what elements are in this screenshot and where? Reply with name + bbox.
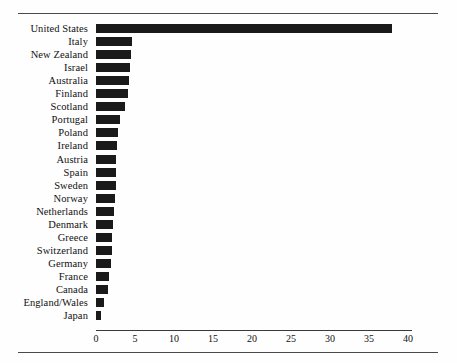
bar (96, 207, 114, 216)
bar-track (96, 168, 116, 177)
bar-track (96, 89, 128, 98)
bar (96, 63, 130, 72)
plot-area: United StatesItalyNew ZealandIsraelAustr… (0, 22, 457, 322)
bar (96, 194, 115, 203)
chart-row: France (0, 270, 457, 283)
chart-row: Spain (0, 166, 457, 179)
bar-track (96, 115, 120, 124)
category-label: Finland (0, 88, 88, 99)
bar-track (96, 272, 109, 281)
chart-row: Austria (0, 153, 457, 166)
category-label: Sweden (0, 180, 88, 191)
bar-track (96, 63, 130, 72)
category-label: Spain (0, 167, 88, 178)
bar-track (96, 194, 115, 203)
bar-track (96, 50, 131, 59)
chart-figure: United StatesItalyNew ZealandIsraelAustr… (0, 0, 457, 363)
category-label: Israel (0, 62, 88, 73)
bar (96, 272, 109, 281)
category-label: Switzerland (0, 245, 88, 256)
bar (96, 181, 116, 190)
category-label: Canada (0, 284, 88, 295)
chart-row: Ireland (0, 139, 457, 152)
bar (96, 24, 392, 33)
bar (96, 285, 108, 294)
x-axis-tick-label: 40 (396, 333, 420, 345)
category-label: Italy (0, 36, 88, 47)
chart-row: Poland (0, 126, 457, 139)
bar (96, 233, 112, 242)
x-axis-tick-label: 30 (318, 333, 342, 345)
chart-row: England/Wales (0, 296, 457, 309)
chart-row: Scotland (0, 100, 457, 113)
bar-track (96, 128, 118, 137)
chart-row: Israel (0, 61, 457, 74)
category-label: Ireland (0, 140, 88, 151)
x-axis-tick-label: 0 (84, 333, 108, 345)
category-label: Denmark (0, 219, 88, 230)
category-label: Austria (0, 154, 88, 165)
chart-row: Germany (0, 257, 457, 270)
category-label: Norway (0, 193, 88, 204)
bar (96, 220, 113, 229)
bar (96, 115, 120, 124)
category-label: Japan (0, 310, 88, 321)
x-axis-tick-label: 20 (240, 333, 264, 345)
chart-row: United States (0, 22, 457, 35)
category-label: Australia (0, 75, 88, 86)
chart-row: Greece (0, 231, 457, 244)
chart-row: Australia (0, 74, 457, 87)
bar-track (96, 181, 116, 190)
figure-bottom-rule (18, 352, 438, 353)
bar (96, 259, 111, 268)
category-label: Netherlands (0, 206, 88, 217)
bar (96, 311, 101, 320)
x-axis-tick-label: 10 (162, 333, 186, 345)
category-label: United States (0, 23, 88, 34)
category-label: England/Wales (0, 297, 88, 308)
bar-track (96, 102, 125, 111)
chart-row: Switzerland (0, 244, 457, 257)
bar-track (96, 220, 113, 229)
chart-row: Portugal (0, 113, 457, 126)
bar (96, 168, 116, 177)
bar-track (96, 155, 116, 164)
bar (96, 89, 128, 98)
x-axis-tick-label: 15 (201, 333, 225, 345)
bar (96, 128, 118, 137)
category-label: Scotland (0, 101, 88, 112)
category-label: Germany (0, 258, 88, 269)
bar (96, 155, 116, 164)
chart-row: Norway (0, 192, 457, 205)
bar (96, 298, 104, 307)
bar-track (96, 24, 392, 33)
bar-track (96, 233, 112, 242)
chart-row: New Zealand (0, 48, 457, 61)
bar-track (96, 246, 112, 255)
chart-row: Netherlands (0, 205, 457, 218)
bar-track (96, 76, 129, 85)
chart-row: Finland (0, 87, 457, 100)
category-label: Poland (0, 127, 88, 138)
figure-top-rule (18, 13, 438, 14)
bar-track (96, 207, 114, 216)
chart-row: Italy (0, 35, 457, 48)
chart-row: Sweden (0, 179, 457, 192)
bar (96, 76, 129, 85)
chart-row: Japan (0, 309, 457, 322)
bar-track (96, 141, 117, 150)
category-label: Portugal (0, 114, 88, 125)
bar (96, 246, 112, 255)
bar (96, 50, 131, 59)
x-axis-tick-label: 25 (279, 333, 303, 345)
bar-track (96, 311, 101, 320)
bar (96, 37, 132, 46)
category-label: France (0, 271, 88, 282)
bar-track (96, 259, 111, 268)
x-axis-line (96, 330, 412, 331)
bar-track (96, 298, 104, 307)
category-label: Greece (0, 232, 88, 243)
bar-track (96, 285, 108, 294)
bar (96, 141, 117, 150)
category-label: New Zealand (0, 49, 88, 60)
